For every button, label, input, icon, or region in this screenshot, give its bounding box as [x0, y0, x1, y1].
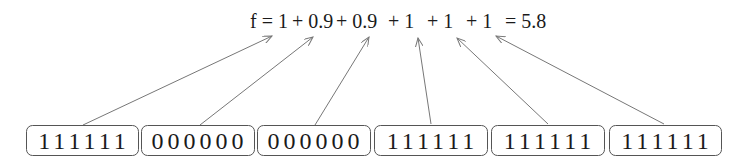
formula-term: + 1: [466, 10, 492, 32]
arrow-6: [496, 36, 664, 124]
arrow-5: [457, 38, 548, 124]
arrows: [83, 36, 664, 125]
bit-block-1: 111111: [27, 126, 139, 156]
bit-block-4: 111111: [375, 126, 488, 156]
block-bits: 000000: [152, 128, 248, 154]
block-bits: 111111: [387, 128, 479, 154]
block-bits: 000000: [268, 128, 364, 154]
bit-block-6: 111111: [610, 126, 722, 156]
arrow-2: [200, 37, 313, 125]
formula-term: = 5.8: [505, 10, 546, 32]
formula-term: f = 1: [250, 10, 288, 32]
formula-term: + 0.9: [292, 10, 333, 32]
fitness-diagram: f = 1+ 0.9+ 0.9+ 1+ 1+ 1= 5.8 1111110000…: [0, 0, 744, 161]
formula-term: + 1: [388, 10, 414, 32]
formula-term: + 0.9: [336, 10, 377, 32]
fitness-formula: f = 1+ 0.9+ 0.9+ 1+ 1+ 1= 5.8: [250, 10, 546, 32]
formula-term: + 1: [427, 10, 453, 32]
bit-block-3: 000000: [258, 126, 371, 156]
bit-block-2: 000000: [142, 126, 255, 156]
bit-blocks: 111111000000000000111111111111111111: [27, 126, 722, 156]
arrow-1: [83, 36, 272, 125]
block-bits: 111111: [504, 128, 596, 154]
block-bits: 111111: [621, 128, 713, 154]
arrow-3: [315, 37, 369, 125]
arrow-4: [418, 38, 431, 124]
bit-block-5: 111111: [492, 126, 605, 156]
block-bits: 111111: [38, 128, 130, 154]
